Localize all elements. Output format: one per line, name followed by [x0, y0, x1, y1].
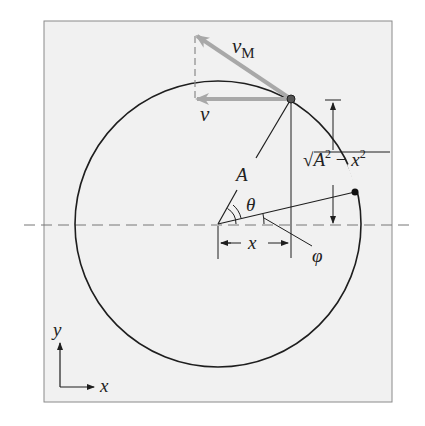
diagram-panel — [44, 21, 392, 402]
axis-x-label: x — [99, 375, 109, 396]
theta-label: θ — [246, 194, 255, 215]
x-dim-label: x — [247, 232, 257, 253]
axis-y-label: y — [51, 319, 62, 340]
initial-point — [352, 189, 359, 196]
shm-circle-diagram: vM v A θ φ x √A2 − x2 y x — [0, 0, 425, 426]
phi-label: φ — [312, 245, 323, 266]
sqrt-label: √A2 − x2 — [303, 147, 366, 170]
reference-point — [287, 95, 295, 103]
amplitude-label: A — [234, 164, 248, 185]
v-label: v — [200, 102, 210, 126]
